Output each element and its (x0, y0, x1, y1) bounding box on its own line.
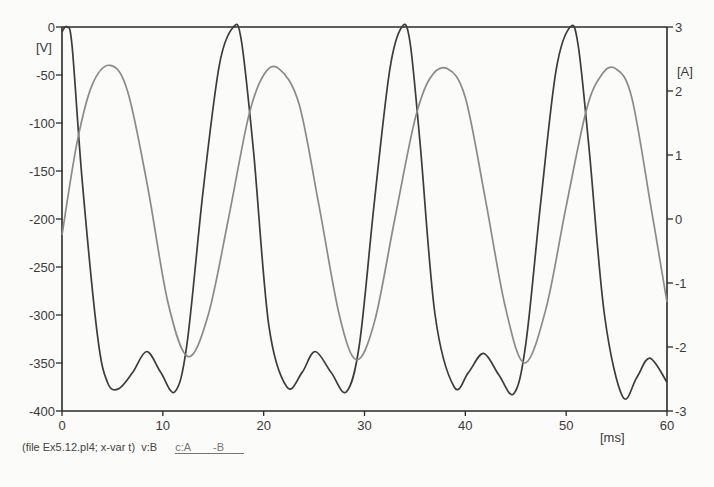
y2-tick-label: -3 (675, 404, 687, 419)
right-unit-label: [A] (677, 64, 693, 79)
y-tick-label: -300 (29, 308, 55, 323)
x-tick-label: 10 (156, 418, 170, 433)
y2-tick-label: 2 (675, 84, 682, 99)
waveform-chart: 01020304050600-50-100-150-200-250-300-35… (0, 0, 714, 487)
x-unit-label: [ms] (600, 430, 625, 445)
x-tick-label: 0 (58, 418, 65, 433)
y2-tick-label: -1 (675, 276, 687, 291)
left-unit-label: [V] (36, 40, 52, 55)
y2-tick-label: 3 (675, 20, 682, 35)
legend-current: c:A-B (175, 441, 244, 454)
x-tick-label: 50 (559, 418, 573, 433)
current-series-line (62, 65, 667, 363)
x-tick-label: 60 (660, 418, 674, 433)
y-tick-label: -50 (36, 68, 55, 83)
y2-tick-label: 0 (675, 212, 682, 227)
legend-voltage: v:B (141, 441, 157, 453)
y-tick-label: -150 (29, 164, 55, 179)
y2-tick-label: 1 (675, 148, 682, 163)
y-tick-label: 0 (48, 20, 55, 35)
y-tick-label: -200 (29, 212, 55, 227)
x-tick-label: 20 (256, 418, 270, 433)
x-tick-label: 30 (357, 418, 371, 433)
y2-tick-label: -2 (675, 340, 687, 355)
y-tick-label: -100 (29, 116, 55, 131)
series-group (62, 24, 667, 399)
y-tick-label: -400 (29, 404, 55, 419)
y-tick-label: -350 (29, 356, 55, 371)
footer-caption: (file Ex5.12.pl4; x-var t) v:Bc:A-B (22, 441, 244, 453)
axes: 01020304050600-50-100-150-200-250-300-35… (29, 20, 687, 433)
file-info: (file Ex5.12.pl4; x-var t) (22, 441, 135, 453)
y-tick-label: -250 (29, 260, 55, 275)
x-tick-label: 40 (458, 418, 472, 433)
